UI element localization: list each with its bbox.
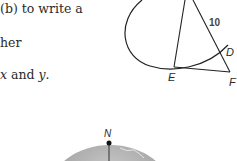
globe-icon bbox=[50, 145, 170, 161]
point-f-label: F bbox=[229, 76, 237, 88]
point-d-label: D bbox=[226, 46, 234, 58]
segment-length-label: 10 bbox=[209, 17, 221, 28]
segment-e-top bbox=[174, 0, 185, 67]
point-e-label: E bbox=[168, 71, 176, 83]
circle-arc bbox=[125, 0, 228, 69]
north-pole-dot bbox=[107, 141, 112, 146]
segment-ef bbox=[174, 67, 230, 72]
geometry-figure: 10 D E F N bbox=[0, 0, 237, 161]
north-label: N bbox=[104, 128, 112, 139]
segment-f-top bbox=[193, 0, 230, 72]
